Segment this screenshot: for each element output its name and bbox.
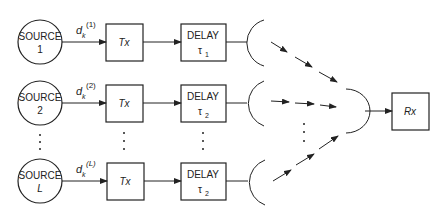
beams — [271, 42, 338, 181]
delay-L-title: DELAY — [187, 169, 219, 180]
transmit-lens-2 — [248, 81, 264, 126]
signal-1-sub: k — [82, 32, 86, 39]
source-2-title: SOURCE — [19, 92, 62, 103]
beam-L-seg3 — [319, 136, 338, 149]
delay-L-tau: τ — [198, 184, 202, 195]
delay-2-tau: τ — [198, 106, 202, 117]
source-1-node — [18, 20, 62, 64]
signal-L-sup: (L) — [86, 159, 96, 168]
signal-L-sub: k — [82, 171, 86, 178]
multi-source-diagram: SOURCE 1 d k (1) Tx DELAY τ 1 SOURCE 2 d… — [0, 0, 445, 217]
transmit-lens-L — [249, 160, 265, 205]
transmit-lens-1 — [247, 20, 264, 66]
delay-2-title: DELAY — [187, 91, 219, 102]
delay-1-title: DELAY — [187, 30, 219, 41]
signal-2-sup: (2) — [86, 81, 96, 90]
source-L-title: SOURCE — [19, 170, 62, 181]
source-L-node — [18, 159, 62, 203]
source-2-node — [18, 81, 62, 125]
signal-2-sub: k — [82, 93, 86, 100]
delay-2-sub: 2 — [205, 112, 209, 119]
beam-2-seg2 — [295, 103, 314, 104]
ellipsis-dots — [39, 123, 305, 150]
beam-2-seg1 — [271, 101, 289, 102]
source-L-index: L — [37, 183, 43, 194]
tx-L-label: Tx — [119, 176, 131, 187]
beam-2-seg3 — [320, 105, 336, 107]
beam-L-seg2 — [296, 154, 314, 165]
beam-1-seg2 — [295, 57, 312, 67]
row-1: SOURCE 1 d k (1) Tx DELAY τ 1 — [18, 20, 264, 66]
beam-1-seg1 — [271, 42, 287, 52]
tx-1-label: Tx — [118, 37, 130, 48]
source-1-title: SOURCE — [19, 31, 62, 42]
delay-1-sub: 1 — [205, 51, 209, 58]
row-2: SOURCE 2 d k (2) Tx DELAY τ 2 — [18, 81, 264, 126]
beam-1-seg3 — [319, 72, 337, 82]
rx-label: Rx — [404, 106, 417, 117]
signal-1-sup: (1) — [86, 20, 96, 29]
tx-2-label: Tx — [118, 98, 130, 109]
row-L: SOURCE L d k (L) Tx DELAY τ 2 — [18, 159, 265, 205]
source-2-index: 2 — [37, 105, 43, 116]
delay-1-tau: τ — [198, 45, 202, 56]
delay-L-sub: 2 — [205, 190, 209, 197]
source-1-index: 1 — [37, 44, 43, 55]
beam-L-seg1 — [273, 170, 291, 181]
